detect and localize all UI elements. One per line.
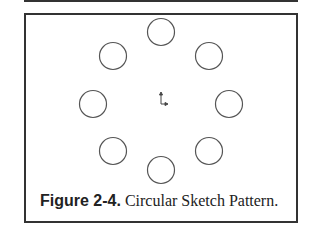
figure-title: Circular Sketch Pattern. bbox=[125, 192, 278, 209]
pattern-circle bbox=[80, 91, 107, 118]
pattern-circle bbox=[148, 157, 175, 184]
pattern-circle bbox=[100, 43, 127, 70]
figure-caption: Figure 2-4. Circular Sketch Pattern. bbox=[40, 192, 278, 210]
pattern-circle bbox=[100, 138, 127, 165]
pattern-circle bbox=[196, 138, 223, 165]
pattern-circle bbox=[148, 19, 175, 46]
pattern-circle bbox=[216, 91, 243, 118]
figure-label: Figure 2-4. bbox=[40, 192, 121, 209]
origin-icon bbox=[160, 92, 169, 106]
pattern-circle bbox=[196, 43, 223, 70]
